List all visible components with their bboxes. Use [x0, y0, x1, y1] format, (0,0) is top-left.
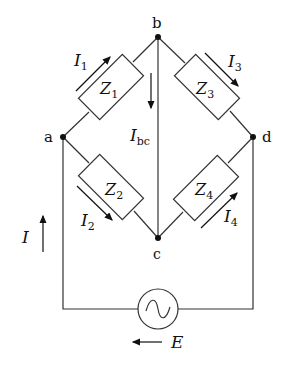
node-label-c: c [153, 246, 161, 262]
wire-z3-d [230, 111, 253, 137]
label-e: E [170, 332, 184, 352]
label-ibc: Ibc [129, 125, 150, 148]
label-i: I [21, 227, 29, 247]
label-i2: I2 [80, 210, 95, 233]
wire-z1-a [63, 112, 89, 137]
wire-b-z3 [158, 37, 185, 63]
wire-a-z2 [63, 137, 89, 163]
wire-b-z1 [133, 37, 158, 62]
node-c [155, 235, 161, 241]
node-d [250, 134, 256, 140]
wire-z4-c [158, 212, 183, 238]
label-i1: I1 [73, 50, 88, 73]
wire-z2-c [134, 211, 158, 238]
node-label-d: d [262, 128, 272, 146]
node-label-b: b [152, 14, 162, 32]
bridge-circuit-diagram: b a d c Z1 Z3 Z2 Z4 I1 I3 I2 I4 Ibc I E [0, 0, 287, 368]
label-i3: I3 [227, 51, 242, 74]
wire-d-z4 [228, 137, 253, 163]
node-label-a: a [44, 128, 53, 146]
node-b [155, 34, 161, 40]
label-i4: I4 [223, 206, 238, 229]
node-a [60, 134, 66, 140]
